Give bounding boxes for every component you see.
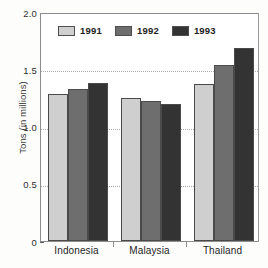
bar-thailand-1991 <box>194 84 214 241</box>
bar-thailand-1992 <box>214 65 234 241</box>
bar-indonesia-1993 <box>88 83 108 241</box>
y-axis-tick-label: 0 <box>32 237 40 248</box>
legend-label: 1992 <box>137 25 159 36</box>
legend-label: 1993 <box>194 25 216 36</box>
bar-thailand-1993 <box>234 48 254 242</box>
y-axis-tick-label: 2.0 <box>23 8 40 19</box>
y-axis-tick-label: 1.0 <box>23 122 40 133</box>
x-axis-label-indonesia: Indonesia <box>40 245 113 256</box>
x-axis-group-separator <box>186 242 187 247</box>
legend-swatch-1992 <box>115 26 132 36</box>
bar-malaysia-1992 <box>141 101 161 241</box>
legend-entry-1993: 1993 <box>172 25 216 36</box>
x-axis-label-thailand: Thailand <box>186 245 259 256</box>
bar-malaysia-1993 <box>161 104 181 241</box>
y-axis-tick-label: 1.5 <box>23 65 40 76</box>
bars-layer <box>41 14 258 241</box>
bar-chart: Tons (in millions) 2.01.51.00.50 1991199… <box>0 0 268 268</box>
bar-malaysia-1991 <box>121 98 141 241</box>
legend-entry-1992: 1992 <box>115 25 159 36</box>
legend: 199119921993 <box>58 25 216 36</box>
legend-swatch-1993 <box>172 26 189 36</box>
bar-indonesia-1992 <box>68 89 88 241</box>
plot-area <box>40 13 259 242</box>
y-axis-label: Tons (in millions) <box>17 38 28 198</box>
x-axis-labels: IndonesiaMalaysiaThailand <box>40 245 259 263</box>
y-axis-tick-label: 0.5 <box>23 179 40 190</box>
legend-entry-1991: 1991 <box>58 25 102 36</box>
legend-label: 1991 <box>80 25 102 36</box>
legend-swatch-1991 <box>58 26 75 36</box>
x-axis-label-malaysia: Malaysia <box>113 245 186 256</box>
bar-indonesia-1991 <box>48 94 68 241</box>
x-axis-group-separator <box>113 242 114 247</box>
